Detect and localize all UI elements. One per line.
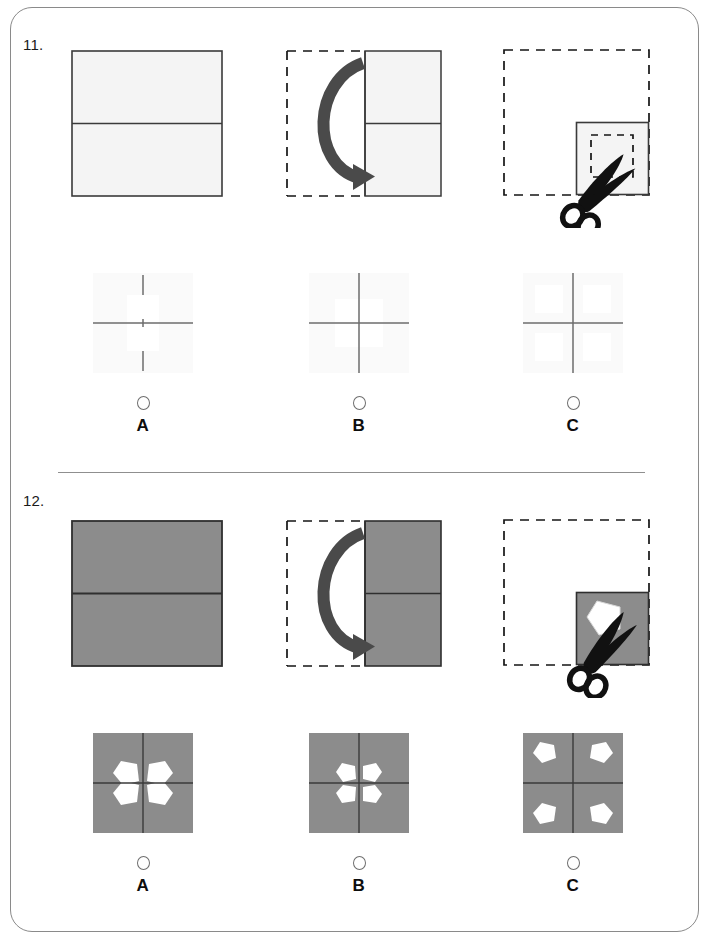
option-a-group[interactable]: A — [68, 268, 218, 434]
option-c-figure — [498, 268, 648, 378]
stimulus-step-1-unfolded-sheet — [63, 38, 223, 198]
option-b-letter: B — [284, 417, 434, 434]
option-b-letter: B — [284, 877, 434, 894]
option-c-letter: C — [498, 877, 648, 894]
option-a-figure — [68, 268, 218, 378]
option-a-group[interactable]: A — [68, 728, 218, 894]
question-11: 11. — [11, 8, 700, 473]
option-c-group[interactable]: C — [498, 268, 648, 434]
stimulus-step-3-quarter-folded-sheet-with-cut — [496, 508, 696, 698]
option-b-figure — [284, 728, 434, 838]
option-b-group[interactable]: B — [284, 268, 434, 434]
stimulus-row — [11, 508, 700, 713]
radio-button-option-b[interactable] — [353, 856, 366, 870]
option-b-group[interactable]: B — [284, 728, 434, 894]
option-a-figure — [68, 728, 218, 838]
worksheet-page: 11. — [10, 7, 699, 932]
question-divider — [58, 472, 645, 473]
option-c-figure — [498, 728, 648, 838]
stimulus-row — [11, 38, 700, 243]
radio-button-option-b[interactable] — [353, 396, 366, 410]
stimulus-step-2-half-folded-sheet — [279, 508, 451, 668]
radio-button-option-c[interactable] — [567, 396, 580, 410]
stimulus-step-3-quarter-folded-sheet-with-cut — [496, 38, 696, 228]
radio-button-option-a[interactable] — [137, 856, 150, 870]
option-a-letter: A — [68, 417, 218, 434]
question-12: 12. — [11, 480, 700, 933]
radio-button-option-a[interactable] — [137, 396, 150, 410]
question-number: 12. — [23, 492, 44, 509]
option-b-figure — [284, 268, 434, 378]
radio-button-option-c[interactable] — [567, 856, 580, 870]
option-c-letter: C — [498, 417, 648, 434]
option-a-letter: A — [68, 877, 218, 894]
option-c-group[interactable]: C — [498, 728, 648, 894]
stimulus-step-2-half-folded-sheet — [279, 38, 451, 198]
stimulus-step-1-unfolded-sheet — [63, 508, 223, 668]
